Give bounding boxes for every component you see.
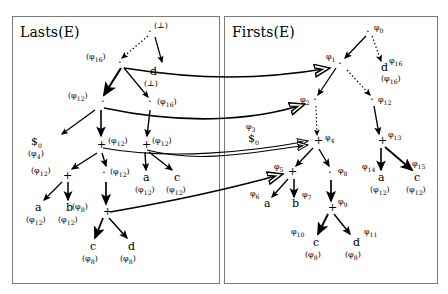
node-annot-phi16-dot2: (φ16) (157, 98, 177, 108)
node-lbl-phi14: φ14 (362, 163, 375, 173)
node-lbl-phi12: φ12 (378, 96, 391, 106)
leaf-sym-a-phi14: a (378, 172, 385, 183)
leaf-annot-a-phi14: (φ12) (370, 186, 390, 196)
node-lbl-phi15: φ15 (412, 160, 425, 170)
node-lbl-phi9: φ9 (338, 198, 348, 208)
node-annot-dollar0: (φ4) (28, 150, 44, 160)
node-lbl-phi1: φ1 (326, 53, 336, 63)
figure-canvas: Lasts(E) Firsts(E) (0, 0, 448, 294)
leaf-annot-c-phi10: (φ8) (305, 251, 321, 261)
leaf-sym-d-bottom: d (128, 241, 135, 252)
node-lbl-phi7: φ7 (302, 191, 312, 201)
leaf-sym-a-right: a (143, 172, 150, 183)
leaf-sym-a-left: a (35, 202, 42, 213)
node-sym-phi13: + (378, 135, 387, 146)
node-sym-phi9: + (328, 202, 337, 213)
node-lbl-phi13: φ13 (388, 131, 401, 141)
node-annot-plus-center: (φ12) (108, 137, 128, 147)
node-sym-phi16-dot2: ⋅ (148, 96, 152, 107)
edges-layer (0, 0, 448, 294)
node-annot-d-right: (φ16) (381, 75, 401, 85)
node-lbl-phi5: φ5 (274, 163, 284, 173)
node-sym-phi1: ⋅ (338, 58, 342, 69)
node-annot-plus-bottom: (φ8) (72, 203, 88, 213)
node-annot-dot-mid: (φ12) (110, 168, 130, 178)
node-sym-plus-right: + (142, 139, 151, 150)
node-sym-phi8: ⋅ (328, 167, 332, 178)
node-sym-phi2: ⋅ (313, 94, 317, 105)
node-lbl-phi8: φ8 (338, 167, 348, 177)
leaf-annot-c-phi15: (φ12) (406, 186, 426, 196)
node-sym-plus-bottom: + (103, 206, 112, 217)
node-annot-phi16: (φ16) (86, 53, 106, 63)
node-sym-bottom-root: ⋅ (148, 26, 152, 37)
node-lbl-phi10: φ10 (291, 228, 304, 238)
node-sym-phi4: + (314, 135, 323, 146)
node-sym-d: d (150, 66, 157, 77)
leaf-annot-b-left: (φ12) (58, 216, 78, 226)
node-lbl-phi0: φ0 (374, 24, 384, 34)
node-annot-phi12-dot: (φ12) (68, 92, 88, 102)
leaf-annot-a-right: (φ12) (135, 186, 155, 196)
node-lbl-phi16-d: φ16 (389, 57, 402, 67)
node-lbl-phi11: φ11 (364, 228, 377, 238)
node-sym-dollar0-right: $0 (248, 133, 259, 146)
node-sym-d-right: d (381, 62, 388, 73)
node-lbl-phi2: φ2 (300, 96, 310, 106)
node-sym-dollar0: $0 (31, 136, 42, 149)
leaf-sym-a-phi6: a (264, 198, 271, 209)
leaf-sym-c-phi15: c (414, 172, 420, 183)
node-annot-plus-right: (φ12) (152, 137, 172, 147)
node-sym-phi0: ⋅ (366, 26, 370, 37)
leaf-annot-c-right: (φ12) (166, 186, 186, 196)
node-annot-d: (⊥) (144, 80, 158, 88)
leaf-annot-a-left: (φ12) (26, 216, 46, 226)
leaf-sym-d-phi11: d (353, 237, 360, 248)
node-lbl-phi4: φ4 (325, 134, 335, 144)
leaf-annot-c-bottom: (φ8) (82, 255, 98, 265)
leaf-sym-c-right: c (174, 172, 180, 183)
node-lbl-phi3: φ3 (246, 123, 256, 133)
node-sym-phi5: + (288, 166, 297, 177)
leaf-annot-d-bottom: (φ8) (120, 255, 136, 265)
node-lbl-phi6: φ6 (250, 190, 260, 200)
node-sym-phi16: ⋅ (118, 57, 122, 68)
node-sym-phi12-dot: ⋅ (101, 96, 105, 107)
node-sym-plus-left2: + (63, 170, 72, 181)
leaf-sym-c-bottom: c (90, 241, 96, 252)
node-annot-plus-left2: (φ12) (31, 167, 51, 177)
leaf-sym-b-phi7: b (292, 198, 299, 209)
leaf-sym-c-phi10: c (313, 237, 319, 248)
leaf-annot-d-phi11: (φ8) (345, 251, 361, 261)
node-sym-plus-center: + (97, 139, 106, 150)
node-sym-phi12-right: ⋅ (370, 94, 374, 105)
node-sym-dot-mid: ⋅ (102, 167, 106, 178)
node-annot-bottom-root: (⊥) (154, 22, 168, 30)
